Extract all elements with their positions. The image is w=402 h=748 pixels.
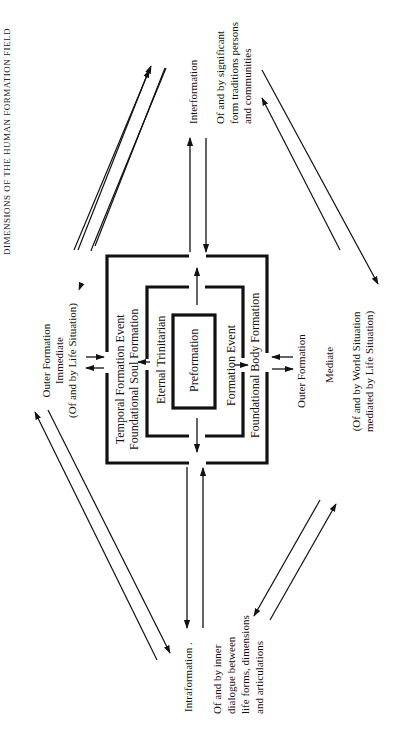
- node-intraformation-description: Of and by inner dialogue between life fo…: [210, 615, 266, 714]
- preformation-label: Preformation: [188, 329, 201, 392]
- foundational-soul-formation-label: Foundational Soul Formation: [127, 309, 141, 450]
- arrow-outer-immediate-to-intra: [48, 410, 170, 653]
- foundational-body-formation-label: Foundational Body Formation: [249, 293, 262, 438]
- formation-event-label: Formation Event: [225, 325, 238, 406]
- node-interformation-description: Of and by significant form traditions pe…: [214, 22, 255, 124]
- arrow-intra-to-outer-immediate: [5, 402, 60, 660]
- node-mediate-heading: Mediate: [323, 347, 336, 383]
- node-mediate-description: (Of and by World Situation mediated by L…: [350, 311, 376, 432]
- arrow-intra-to-mediate: [270, 504, 336, 620]
- node-outer-formation-mediate: Outer Formation: [295, 334, 308, 408]
- node-intraformation-heading: Intraformation .: [182, 642, 195, 712]
- outer-box-left-labels: Temporal Formation Event Foundational So…: [113, 309, 141, 450]
- arrow-mediate-to-intra: [254, 500, 320, 616]
- eternal-trinitarian-label: Eternal Trinitarian: [155, 316, 168, 404]
- node-interformation-heading: Interformation: [187, 60, 200, 124]
- diagram-title: DIMENSIONS OF THE HUMAN FORMATION FIELD: [2, 28, 12, 255]
- temporal-formation-event-label: Temporal Formation Event: [113, 309, 127, 450]
- node-outer-formation-immediate: Outer Formation Immediate (Of and by Lif…: [40, 303, 79, 418]
